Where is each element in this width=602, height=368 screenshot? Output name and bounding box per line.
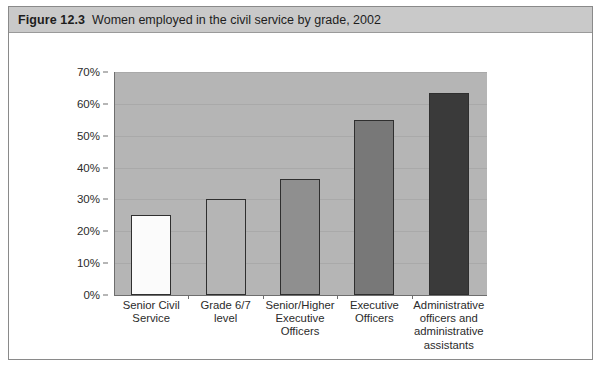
x-axis-label-line: Officers [337,312,411,325]
x-axis-label-line: officers and [412,312,486,325]
x-axis-label-line: Senior/Higher [263,299,337,312]
y-axis-tick-label: 70% [77,66,100,78]
x-axis-label-line: Grade 6/7 level [188,299,262,325]
bar-series [114,72,486,295]
y-axis-tick-label: 30% [77,193,100,205]
x-axis-label-line: Senior Civil [114,299,188,312]
x-axis: Senior CivilServiceGrade 6/7 levelSenior… [114,299,486,368]
chart-canvas: 0%10%20%30%40%50%60%70% Senior CivilServ… [9,34,592,359]
y-axis-tick-mark [103,231,108,232]
y-axis-tick-label: 60% [77,98,100,110]
x-axis-label-line: Executive [337,299,411,312]
x-axis-category-label: Senior CivilService [114,299,188,325]
y-axis-tick-mark [103,72,108,73]
x-axis-label-line: Officers [263,325,337,338]
y-axis-tick-label: 50% [77,130,100,142]
x-axis-label-line: Administrative [412,299,486,312]
x-axis-label-line: administrative [412,325,486,338]
y-axis-tick-label: 40% [77,162,100,174]
y-axis-tick-mark [103,295,108,296]
bar [206,199,246,295]
bar [354,120,394,295]
y-axis-tick-label: 0% [83,289,100,301]
x-axis-label-line: Executive [263,312,337,325]
figure-caption-bar: Figure 12.3 Women employed in the civil … [9,7,592,33]
x-axis-category-label: Senior/HigherExecutiveOfficers [263,299,337,339]
x-axis-label-line: Service [114,312,188,325]
y-axis-tick-label: 10% [77,257,100,269]
x-axis-label-line: assistants [412,339,486,352]
y-axis-tick-mark [103,199,108,200]
x-axis-category-label: Grade 6/7 level [188,299,262,325]
y-axis-tick-mark [103,103,108,104]
y-axis: 0%10%20%30%40%50%60%70% [9,72,108,295]
bar [280,179,320,295]
y-axis-tick-mark [103,135,108,136]
bar [429,93,469,295]
figure-frame: Figure 12.3 Women employed in the civil … [8,6,593,360]
y-axis-tick-label: 20% [77,225,100,237]
bar [131,215,171,295]
x-axis-category-label: Administrativeofficers andadministrative… [412,299,486,352]
x-axis-category-label: ExecutiveOfficers [337,299,411,325]
y-axis-tick-mark [103,263,108,264]
figure-number-label: Figure 12.3 [18,13,85,27]
y-axis-tick-mark [103,167,108,168]
figure-title-text: Women employed in the civil service by g… [92,13,381,27]
